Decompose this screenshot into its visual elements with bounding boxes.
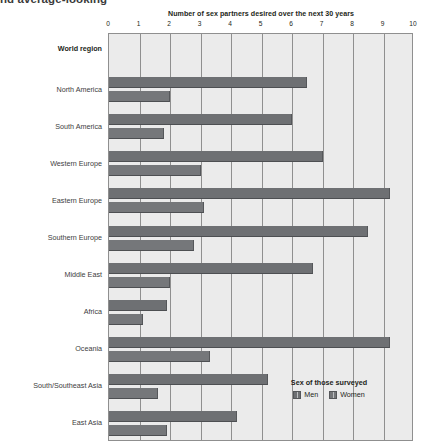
bar-men (109, 188, 390, 199)
x-axis-tick-label: 9 (373, 20, 393, 27)
x-axis-tick-label: 1 (129, 20, 149, 27)
bar-men (109, 151, 323, 162)
legend-swatch-icon (329, 391, 337, 399)
bar-men (109, 374, 268, 385)
bar-women (109, 388, 158, 399)
y-axis-category-label: North America (0, 84, 102, 93)
y-axis-category-label: Southern Europe (0, 233, 102, 242)
y-axis-category-label: South America (0, 121, 102, 130)
x-axis-tick-label: 10 (403, 20, 423, 27)
bar-women (109, 202, 204, 213)
y-axis-category-label: Middle East (0, 270, 102, 279)
legend-title: Sex of those surveyed (271, 378, 387, 387)
bar-men (109, 300, 167, 311)
bar-men (109, 77, 307, 88)
legend-items: MenWomen (271, 390, 387, 399)
y-axis-category-label: South/Southeast Asia (0, 381, 102, 390)
legend: Sex of those surveyed MenWomen (271, 378, 387, 399)
bar-women (109, 240, 194, 251)
y-axis-category-label: East Asia (0, 418, 102, 427)
x-axis-tick-label: 3 (190, 20, 210, 27)
y-axis-category-label: Oceania (0, 344, 102, 353)
bar-men (109, 263, 313, 274)
caption-fragment: nd average-looking (0, 0, 200, 7)
legend-label: Women (340, 390, 365, 399)
x-axis-tick-label: 4 (220, 20, 240, 27)
bar-women (109, 314, 143, 325)
x-axis-tick-labels: 012345678910 (0, 20, 431, 32)
bar-women (109, 351, 210, 362)
y-axis-category-labels: World regionNorth AmericaSouth AmericaWe… (0, 33, 105, 441)
y-axis-category-label: Africa (0, 307, 102, 316)
bar-men (109, 226, 368, 237)
bar-women (109, 277, 170, 288)
y-axis-category-label: Eastern Europe (0, 195, 102, 204)
bar-women (109, 425, 167, 436)
x-axis-tick-label: 6 (281, 20, 301, 27)
bar-women (109, 128, 164, 139)
bar-women (109, 165, 201, 176)
x-axis-tick-label: 0 (98, 20, 118, 27)
bar-men (109, 114, 292, 125)
bar-women (109, 91, 170, 102)
y-axis-header: World region (0, 43, 102, 52)
legend-item: Women (329, 390, 365, 399)
x-axis-tick-label: 7 (312, 20, 332, 27)
y-axis-category-label: Western Europe (0, 158, 102, 167)
legend-item: Men (293, 390, 318, 399)
legend-label: Men (304, 390, 318, 399)
bar-men (109, 337, 390, 348)
bar-men (109, 411, 237, 422)
legend-swatch-icon (293, 391, 301, 399)
x-axis-tick-label: 5 (251, 20, 271, 27)
x-axis-tick-label: 2 (159, 20, 179, 27)
chart-title: Number of sex partners desired over the … (108, 10, 414, 18)
x-axis-tick-label: 8 (342, 20, 362, 27)
